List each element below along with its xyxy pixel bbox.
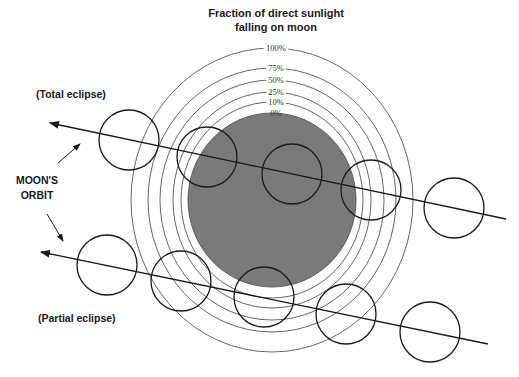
moons-orbit-label-line1: MOON'S — [16, 174, 58, 186]
ring-percent-label: 0% — [270, 108, 281, 118]
pointer-arrow-up — [58, 144, 80, 163]
ring-percent-label: 10% — [268, 97, 284, 107]
ring-percent-label: 100% — [266, 43, 286, 53]
partial-eclipse-label: (Partial eclipse) — [38, 312, 116, 324]
moons-orbit-label-line2: ORBIT — [21, 189, 54, 201]
diagram-title-line2: falling on moon — [235, 21, 317, 33]
umbra-disk — [188, 113, 356, 287]
diagram-title-line1: Fraction of direct sunlight — [208, 7, 344, 19]
ring-percent-label: 50% — [268, 75, 284, 85]
total-eclipse-label: (Total eclipse) — [36, 88, 106, 100]
ring-percent-label: 25% — [268, 87, 284, 97]
earth-shadow: 100%75%50%25%10%0% — [131, 43, 413, 352]
pointer-arrow-down — [47, 214, 63, 241]
ring-percent-label: 75% — [268, 63, 284, 73]
moon-position — [316, 284, 376, 344]
lunar-eclipse-diagram: Fraction of direct sunlight falling on m… — [0, 0, 519, 377]
